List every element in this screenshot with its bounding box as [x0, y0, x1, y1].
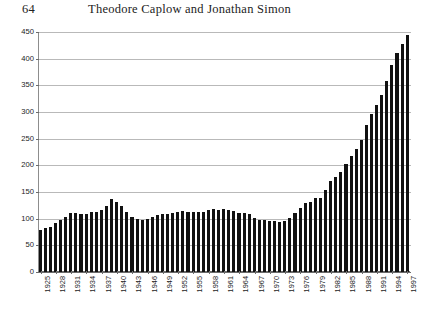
y-tick-label: 450: [0, 28, 34, 36]
x-tick-label: 1934: [89, 276, 96, 292]
bar: [49, 227, 52, 272]
bar: [304, 203, 307, 272]
bar: [385, 81, 388, 272]
running-head: 64 Theodore Caplow and Jonathan Simon: [0, 0, 432, 22]
bar: [202, 212, 205, 272]
chapter-title: Theodore Caplow and Jonathan Simon: [88, 2, 291, 17]
bar: [156, 215, 159, 272]
bar: [141, 220, 144, 272]
x-tick-label: 1976: [303, 276, 310, 292]
bar-chart-figure: 450400350300250200150100500 192519281931…: [0, 24, 432, 318]
x-tick-label: 1949: [166, 276, 173, 292]
y-tick-label: 250: [0, 135, 34, 143]
x-axis: 1925192819311934193719401943194619491952…: [38, 274, 418, 318]
bar: [120, 206, 123, 272]
bar-series: [38, 32, 410, 272]
x-tick-label: 1988: [365, 276, 372, 292]
x-tick-label: 1973: [288, 276, 295, 292]
x-tick-label: 1952: [181, 276, 188, 292]
x-tick-label: 1985: [349, 276, 356, 292]
bar: [232, 211, 235, 272]
x-tick-mark: [178, 271, 179, 274]
bar: [85, 214, 88, 272]
y-tick-label: 350: [0, 81, 34, 89]
x-tick-label: 1970: [273, 276, 280, 292]
bar: [319, 198, 322, 272]
x-tick-mark: [148, 271, 149, 274]
bar: [136, 219, 139, 272]
bar: [339, 172, 342, 272]
bar: [227, 210, 230, 272]
y-tick-label: 50: [0, 241, 34, 249]
x-tick-mark: [71, 271, 72, 274]
bar: [344, 164, 347, 272]
bar: [324, 190, 327, 272]
x-tick-label: 1997: [410, 276, 417, 292]
y-tick-label: 0: [0, 268, 34, 276]
bar: [166, 214, 169, 272]
x-tick-mark: [132, 271, 133, 274]
x-tick-label: 1946: [151, 276, 158, 292]
x-tick-mark: [102, 271, 103, 274]
bar: [212, 209, 215, 272]
bar: [395, 53, 398, 272]
x-tick-label: 1994: [395, 276, 402, 292]
bar: [370, 114, 373, 272]
bar: [59, 220, 62, 272]
bar: [309, 202, 312, 272]
x-tick-label: 1979: [319, 276, 326, 292]
bar: [130, 217, 133, 272]
x-tick-mark: [239, 271, 240, 274]
x-tick-mark: [346, 271, 347, 274]
bar: [217, 210, 220, 272]
x-tick-label: 1955: [196, 276, 203, 292]
bar: [39, 230, 42, 272]
bar: [248, 214, 251, 272]
bar: [390, 65, 393, 272]
x-tick-label: 1928: [59, 276, 66, 292]
x-tick-mark: [224, 271, 225, 274]
y-tick-mark: [36, 272, 39, 273]
bar: [380, 95, 383, 272]
x-tick-mark: [209, 271, 210, 274]
y-tick-label: 150: [0, 188, 34, 196]
bar: [273, 221, 276, 272]
bar: [110, 199, 113, 272]
bar: [360, 140, 363, 272]
bar: [253, 218, 256, 272]
bar: [161, 214, 164, 272]
bar: [258, 220, 261, 272]
bar: [171, 213, 174, 272]
bar: [263, 220, 266, 272]
bar: [79, 214, 82, 272]
bar: [278, 222, 281, 272]
bar: [355, 149, 358, 272]
bar: [365, 125, 368, 272]
bar: [64, 217, 67, 272]
y-tick-label: 400: [0, 55, 34, 63]
x-tick-label: 1982: [334, 276, 341, 292]
x-tick-label: 1958: [212, 276, 219, 292]
x-tick-mark: [316, 271, 317, 274]
bar: [207, 210, 210, 272]
bar: [44, 228, 47, 272]
x-tick-label: 1931: [74, 276, 81, 292]
bar: [299, 208, 302, 272]
bar: [283, 221, 286, 272]
x-tick-mark: [117, 271, 118, 274]
bar: [186, 212, 189, 272]
page-number: 64: [22, 2, 35, 17]
bar: [151, 217, 154, 272]
bar: [288, 218, 291, 272]
bar: [350, 156, 353, 272]
x-tick-mark: [362, 271, 363, 274]
bar: [90, 212, 93, 272]
bar: [375, 105, 378, 272]
bar: [54, 223, 57, 272]
x-tick-mark: [255, 271, 256, 274]
x-tick-mark: [56, 271, 57, 274]
x-tick-mark: [300, 271, 301, 274]
x-tick-mark: [285, 271, 286, 274]
bar: [401, 44, 404, 272]
x-tick-mark: [163, 271, 164, 274]
